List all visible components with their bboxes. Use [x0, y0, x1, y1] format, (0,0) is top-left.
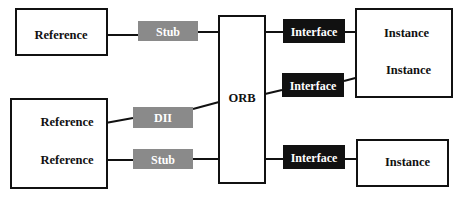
- orb-architecture-diagram: Reference Reference Reference Stub DII S…: [0, 0, 464, 201]
- reference-label-top: Reference: [34, 28, 88, 42]
- reference-label-dii: Reference: [40, 115, 94, 129]
- stub-box-top: Stub: [138, 21, 198, 41]
- client-box-bottom: Reference Reference: [11, 99, 107, 188]
- edge-orb-to-interface-2: [265, 90, 282, 94]
- server-box-top: Instance Instance: [356, 9, 452, 97]
- instance-label-1: Instance: [384, 26, 430, 40]
- interface-label-1: Interface: [291, 25, 338, 39]
- orb-label: ORB: [228, 91, 255, 105]
- orb-box: ORB: [219, 16, 265, 183]
- interface-box-2: Interface: [282, 73, 344, 97]
- interface-box-1: Interface: [283, 19, 345, 43]
- stub-label-bottom: Stub: [151, 153, 175, 167]
- stub-box-bottom: Stub: [133, 149, 193, 169]
- instance-label-3: Instance: [385, 155, 431, 169]
- stub-label-top: Stub: [156, 25, 180, 39]
- dii-box: DII: [133, 107, 193, 128]
- edge-dii-to-orb: [193, 102, 219, 109]
- reference-label-stub: Reference: [40, 153, 94, 167]
- interface-label-3: Interface: [291, 151, 338, 165]
- instance-label-2: Instance: [386, 63, 432, 77]
- interface-label-2: Interface: [290, 79, 337, 93]
- client-box-top: Reference: [16, 9, 107, 55]
- dii-label: DII: [154, 111, 172, 125]
- interface-box-3: Interface: [283, 145, 345, 169]
- server-box-bottom: Instance: [357, 140, 448, 186]
